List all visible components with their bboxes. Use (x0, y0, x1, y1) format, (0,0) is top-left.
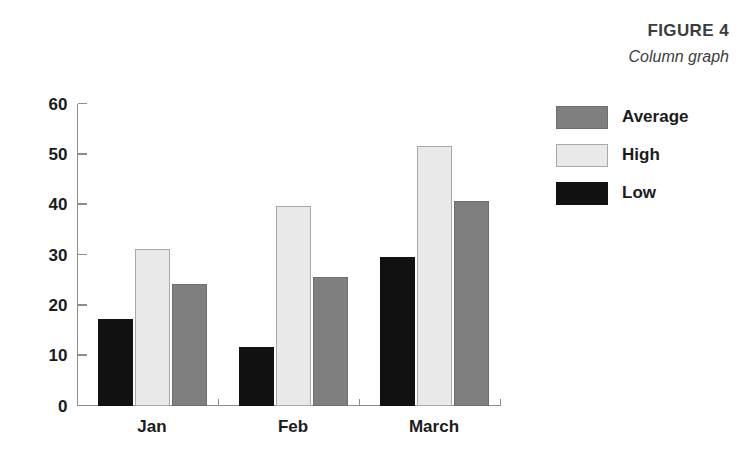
x-category-label: Feb (278, 417, 308, 436)
legend-swatch-low (556, 182, 608, 205)
bar-jan-high (135, 249, 169, 405)
y-tick-label: 50 (49, 145, 68, 164)
bar-feb-low (239, 348, 273, 406)
legend-item-low: Low (556, 174, 688, 212)
legend-swatch-average (556, 106, 608, 129)
y-tick-label: 60 (49, 95, 68, 114)
bar-jan-low (98, 320, 132, 406)
legend-label-average: Average (622, 107, 688, 127)
figure-number-label: FIGURE 4 (629, 20, 730, 43)
figure-subtitle: Column graph (629, 46, 730, 68)
category-labels: JanFebMarch (137, 417, 459, 436)
y-tick-label: 0 (58, 397, 67, 416)
chart-legend: Average High Low (556, 98, 688, 212)
legend-item-average: Average (556, 98, 688, 136)
figure-caption: FIGURE 4 Column graph (629, 20, 730, 68)
x-category-label: Jan (137, 417, 166, 436)
column-chart: 0102030405060 JanFebMarch (0, 0, 540, 457)
bar-feb-high (276, 207, 310, 406)
bar-feb-average (313, 277, 347, 405)
y-tick-label: 30 (49, 246, 68, 265)
bar-march-high (417, 146, 451, 405)
y-tick-label: 20 (49, 296, 68, 315)
x-category-label: March (409, 417, 459, 436)
legend-item-high: High (556, 136, 688, 174)
legend-label-high: High (622, 145, 660, 165)
y-tick-label: 40 (49, 195, 68, 214)
bar-jan-average (172, 285, 206, 406)
legend-swatch-high (556, 144, 608, 167)
y-tick-label: 10 (49, 346, 68, 365)
legend-label-low: Low (622, 183, 656, 203)
bar-march-low (380, 257, 414, 405)
bar-march-average (454, 202, 488, 406)
y-axis: 0102030405060 (49, 95, 87, 416)
chart-canvas: 0102030405060 JanFebMarch (0, 0, 540, 457)
bars-layer (98, 146, 488, 405)
